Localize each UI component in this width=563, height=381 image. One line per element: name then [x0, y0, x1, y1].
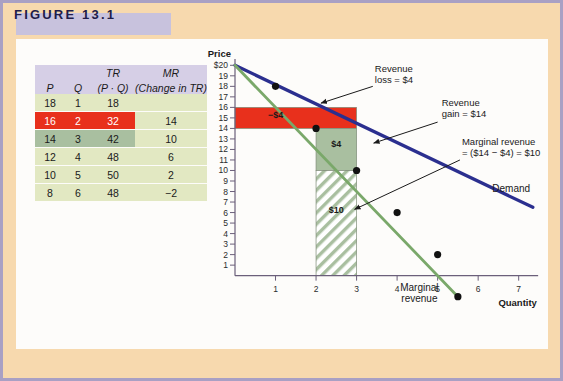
revenue-gain-annotation-arrow [374, 122, 438, 143]
table-cell-quantity: 6 [65, 184, 91, 202]
y-tick-label: 9 [223, 176, 228, 186]
table-cell-marginal-revenue: 6 [135, 148, 207, 166]
y-tick-label: 13 [219, 134, 229, 144]
y-tick-label: 1 [223, 260, 228, 270]
table-row: 105502 [35, 166, 207, 184]
table-cell-total-revenue: 32 [91, 112, 135, 130]
table-cell-quantity: 1 [65, 94, 91, 112]
y-tick-label: 17 [219, 92, 229, 102]
x-tick-label: 4 [395, 284, 400, 294]
y-tick-label: 3 [223, 239, 228, 249]
region-label-revenue-gain-upper: $4 [331, 139, 341, 149]
revenue-loss-annotation-arrow [321, 86, 373, 103]
x-tick-label: 2 [314, 284, 319, 294]
data-point [394, 209, 401, 216]
region-revenue-gain-upper [316, 128, 357, 170]
x-tick-label: 1 [273, 284, 278, 294]
x-tick-label: 6 [476, 284, 481, 294]
y-tick-label: 4 [223, 229, 228, 239]
data-point [434, 251, 441, 258]
table-cell-price: 12 [35, 148, 65, 166]
table-cell-price: 8 [35, 184, 65, 202]
y-axis-title: Price [208, 48, 231, 59]
y-tick-label: $20 [214, 60, 228, 70]
data-point [312, 125, 319, 132]
table-cell-total-revenue: 50 [91, 166, 135, 184]
region-label-revenue-loss: −$4 [268, 110, 283, 120]
y-tick-label: 2 [223, 250, 228, 260]
demand-label: Demand [492, 183, 530, 194]
chart-series [235, 65, 533, 296]
y-tick-label: 11 [219, 155, 228, 165]
y-tick-label: 16 [219, 102, 229, 112]
table-header-cell: MR [135, 65, 207, 79]
table-row: 8648−2 [35, 184, 207, 202]
table-cell-quantity: 2 [65, 112, 91, 130]
table-header-cell [35, 65, 65, 79]
table-cell-price: 18 [35, 94, 65, 112]
table-row: 18118 [35, 94, 207, 112]
table-cell-marginal-revenue: 14 [135, 112, 207, 130]
table-cell-price: 10 [35, 166, 65, 184]
price-quantity-chart: 12345678910111213141516171819$201234567P… [199, 45, 549, 345]
table-cell-total-revenue: 48 [91, 148, 135, 166]
data-point [353, 167, 360, 174]
table-header-cell: (P · Q) [91, 79, 135, 94]
table-cell-marginal-revenue: 10 [135, 130, 207, 148]
table-cell-total-revenue: 42 [91, 130, 135, 148]
y-tick-label: 5 [223, 218, 228, 228]
table-row: 1434210 [35, 130, 207, 148]
table-header-cell [65, 65, 91, 79]
table-cell-total-revenue: 48 [91, 184, 135, 202]
figure-container: FIGURE 13.1 TRMRPQ(P · Q)(Change in TR)1… [0, 0, 563, 381]
table-cell-marginal-revenue [135, 94, 207, 112]
table-cell-price: 14 [35, 130, 65, 148]
marginal-revenue-label: Marginalrevenue [400, 282, 438, 304]
table-cell-quantity: 4 [65, 148, 91, 166]
y-tick-label: 15 [219, 113, 229, 123]
revenue-loss-annotation: Revenueloss = $4 [375, 63, 413, 85]
y-tick-label: 10 [219, 165, 229, 175]
table-header-cell: (Change in TR) [135, 79, 207, 94]
data-point [454, 293, 461, 300]
table-cell-quantity: 5 [65, 166, 91, 184]
table-cell-marginal-revenue: 2 [135, 166, 207, 184]
x-axis-title: Quantity [498, 297, 537, 308]
table-header-row-2: PQ(P · Q)(Change in TR) [35, 79, 207, 94]
marginal-revenue-annotation-arrow [355, 160, 460, 209]
y-tick-label: 6 [223, 208, 228, 218]
table-header-cell: P [35, 79, 65, 94]
table-header-cell: TR [91, 65, 135, 79]
x-tick-label: 7 [516, 284, 521, 294]
table-cell-quantity: 3 [65, 130, 91, 148]
region-revenue-loss [235, 107, 357, 128]
revenue-table: TRMRPQ(P · Q)(Change in TR)1811816232141… [35, 65, 207, 202]
y-tick-label: 14 [219, 123, 229, 133]
revenue-gain-annotation: Revenuegain = $14 [442, 97, 487, 119]
region-label-revenue-gain-hatched: $10 [329, 205, 344, 215]
table-row: 124486 [35, 148, 207, 166]
chart-shaded-regions [235, 107, 357, 275]
table-header-cell: Q [65, 79, 91, 94]
y-tick-label: 18 [219, 81, 229, 91]
marginal-revenue-annotation: Marginal revenue= ($14 − $4) = $10 [462, 136, 540, 158]
table-header-row-1: TRMR [35, 65, 207, 79]
table-row: 1623214 [35, 112, 207, 130]
table-cell-price: 16 [35, 112, 65, 130]
y-tick-label: 19 [219, 71, 229, 81]
table-cell-marginal-revenue: −2 [135, 184, 207, 202]
y-tick-label: 7 [223, 197, 228, 207]
x-tick-label: 3 [354, 284, 359, 294]
y-tick-label: 12 [219, 144, 229, 154]
table-cell-total-revenue: 18 [91, 94, 135, 112]
y-tick-label: 8 [223, 187, 228, 197]
data-point [272, 83, 279, 90]
page-title: FIGURE 13.1 [14, 7, 116, 22]
